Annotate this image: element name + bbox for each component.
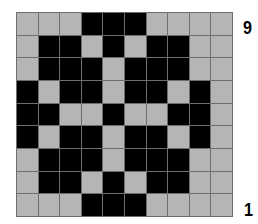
grid-cell [147, 172, 168, 194]
grid-cell [168, 149, 189, 171]
grid-cell [39, 194, 60, 216]
grid-cell [17, 58, 38, 80]
pattern-chart: 9 1 [0, 0, 258, 224]
grid-cell [17, 13, 38, 35]
grid-cell [168, 126, 189, 148]
grid-cell [60, 58, 81, 80]
grid-cell [125, 104, 146, 126]
grid-cell [168, 81, 189, 103]
grid-cell [103, 36, 124, 58]
grid-cell [82, 36, 103, 58]
grid-cell [125, 81, 146, 103]
grid-cell [39, 126, 60, 148]
grid-cell [125, 36, 146, 58]
grid-cell [82, 58, 103, 80]
grid-cell [125, 13, 146, 35]
grid-cell [211, 13, 232, 35]
grid-cell [17, 172, 38, 194]
grid-cell [125, 126, 146, 148]
grid-cell [168, 194, 189, 216]
grid-cell [103, 58, 124, 80]
grid-cell [147, 104, 168, 126]
grid-cell [17, 194, 38, 216]
grid-cell [17, 126, 38, 148]
grid-cell [190, 58, 211, 80]
grid-cell [39, 36, 60, 58]
grid-cell [147, 36, 168, 58]
grid-cell [17, 149, 38, 171]
grid-cell [125, 149, 146, 171]
grid-cell [211, 36, 232, 58]
grid-cell [211, 126, 232, 148]
grid-cell [39, 172, 60, 194]
grid-cell [17, 36, 38, 58]
grid-cell [168, 58, 189, 80]
grid-cell [125, 172, 146, 194]
row-label-top: 9 [243, 18, 252, 37]
grid-cell [82, 172, 103, 194]
grid-cell [103, 81, 124, 103]
grid-cell [82, 126, 103, 148]
grid-cell [211, 149, 232, 171]
grid-cell [60, 104, 81, 126]
grid-cell [147, 126, 168, 148]
grid-cell [190, 126, 211, 148]
grid-cell [211, 104, 232, 126]
grid-cell [125, 58, 146, 80]
grid-cell [211, 172, 232, 194]
grid-cell [103, 126, 124, 148]
grid-cell [103, 104, 124, 126]
row-label-bottom: 1 [244, 200, 253, 219]
grid-cell [82, 104, 103, 126]
grid-cell [82, 13, 103, 35]
grid-cell [17, 81, 38, 103]
grid-cell [82, 81, 103, 103]
grid-cell [103, 194, 124, 216]
grid-cell [147, 194, 168, 216]
grid-cell [60, 81, 81, 103]
grid-cell [190, 36, 211, 58]
grid-cell [190, 194, 211, 216]
grid-cell [60, 194, 81, 216]
grid-cell [103, 149, 124, 171]
grid-cell [168, 172, 189, 194]
grid-cell [147, 149, 168, 171]
grid-cell [60, 172, 81, 194]
grid-cell [168, 13, 189, 35]
grid-cell [147, 81, 168, 103]
grid-cell [147, 58, 168, 80]
pattern-grid [16, 12, 233, 217]
grid-cell [168, 36, 189, 58]
grid-cell [60, 13, 81, 35]
grid-cell [190, 172, 211, 194]
grid-cell [39, 58, 60, 80]
grid-cell [190, 13, 211, 35]
grid-cell [39, 149, 60, 171]
grid-cell [103, 13, 124, 35]
grid-cell [39, 13, 60, 35]
grid-cell [82, 194, 103, 216]
grid-cell [147, 13, 168, 35]
grid-cell [60, 36, 81, 58]
grid-cell [39, 104, 60, 126]
grid-cell [190, 81, 211, 103]
grid-cell [60, 149, 81, 171]
grid-cell [168, 104, 189, 126]
grid-cell [17, 104, 38, 126]
grid-cell [190, 149, 211, 171]
grid-cell [125, 194, 146, 216]
grid-cell [39, 81, 60, 103]
grid-cell [60, 126, 81, 148]
grid-cell [190, 104, 211, 126]
grid-cell [211, 58, 232, 80]
grid-cell [211, 81, 232, 103]
grid-cell [82, 149, 103, 171]
grid-cell [103, 172, 124, 194]
grid-cell [211, 194, 232, 216]
